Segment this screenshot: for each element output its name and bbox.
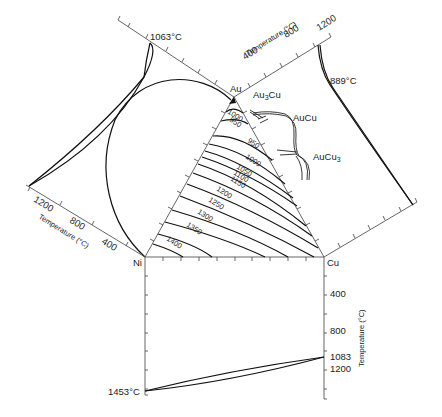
au-cu-liquidus bbox=[318, 45, 413, 205]
au-cu-solidus bbox=[320, 45, 413, 205]
ni-cu-solidus bbox=[145, 357, 324, 391]
au-ni-axis-title: Temperature (°C) bbox=[37, 212, 91, 250]
ticks-ni-cu bbox=[163, 257, 306, 261]
corner-label-cu: Cu bbox=[327, 257, 339, 268]
isotherm-1450a bbox=[158, 234, 212, 257]
au-cu-axis-title: Temperature (°C) bbox=[244, 19, 298, 57]
svg-text:1200: 1200 bbox=[330, 363, 351, 374]
phase-label-aucu3: AuCu3 bbox=[313, 151, 341, 163]
ticks-au-ni bbox=[150, 111, 225, 241]
au-cu-temp-axis bbox=[234, 37, 331, 97]
svg-text:1200: 1200 bbox=[32, 193, 56, 214]
mp-cu-label: 1083 bbox=[330, 351, 351, 362]
corner-label-ni: Ni bbox=[133, 257, 142, 268]
phase-label-aucu: AuCu bbox=[293, 112, 317, 123]
svg-text:400: 400 bbox=[100, 235, 119, 253]
svg-text:950: 950 bbox=[246, 136, 261, 150]
phase-diagram: 1000 950 950 1000 1050 1100 1150 1200 12… bbox=[0, 0, 442, 417]
au-ni-solidus bbox=[29, 43, 150, 186]
svg-text:1350: 1350 bbox=[185, 220, 204, 236]
ni-cu-liquidus bbox=[145, 357, 324, 391]
phase-label-au3cu: Au3Cu bbox=[253, 89, 281, 101]
au-cu-base-axis bbox=[324, 202, 417, 257]
edge-au-ni bbox=[145, 97, 234, 257]
ternary-triangle: 1000 950 950 1000 1050 1100 1150 1200 12… bbox=[106, 80, 324, 261]
mp-au-label: 1063°C bbox=[150, 31, 182, 42]
isotherm-1350 bbox=[172, 210, 288, 257]
svg-text:1250: 1250 bbox=[207, 195, 226, 211]
corner-label-au: Au bbox=[230, 83, 242, 94]
au-ni-liquidus bbox=[29, 43, 153, 186]
min-aucu-label: 889°C bbox=[330, 75, 357, 86]
svg-text:800: 800 bbox=[330, 325, 346, 336]
isotherm-labels: 1000 950 950 1000 1050 1100 1150 1200 12… bbox=[165, 107, 263, 250]
diagram-canvas: 1000 950 950 1000 1050 1100 1150 1200 12… bbox=[0, 0, 442, 417]
au-ni-binary: 1063°C 1200 800 400 Temperature (°C) bbox=[26, 16, 234, 257]
svg-text:1200: 1200 bbox=[314, 12, 338, 33]
ni-cu-axis-title: Temperature (°C) bbox=[357, 309, 366, 367]
ni-cu-binary: 1453°C 400 800 1083 1200 Temperature (°C… bbox=[108, 257, 366, 399]
mp-ni-label: 1453°C bbox=[108, 386, 140, 397]
svg-text:1400: 1400 bbox=[165, 234, 184, 250]
au-cu-binary: 400 800 1200 Temperature (°C) 889°C bbox=[234, 12, 417, 257]
svg-text:400: 400 bbox=[330, 288, 346, 299]
